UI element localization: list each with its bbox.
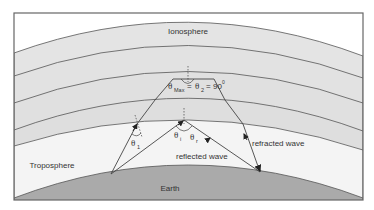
troposphere-label: Troposphere xyxy=(29,161,75,170)
refracted-wave-label: refracted wave xyxy=(252,139,305,148)
equals-sign-1: = xyxy=(187,82,192,91)
ionosphere-label: Ionosphere xyxy=(168,27,209,36)
theta-i-subscript: i xyxy=(180,136,181,142)
diagram-canvas: Ionosphere Troposphere Earth θ Max = θ 2… xyxy=(0,0,374,210)
theta-2-symbol: θ xyxy=(195,81,199,91)
theta-1-symbol: θ xyxy=(131,138,135,148)
theta-1-subscript: 1 xyxy=(137,144,140,150)
theta-max-symbol: θ xyxy=(168,81,172,91)
theta-max-subscript: Max xyxy=(174,87,185,93)
theta-2-subscript: 2 xyxy=(201,87,204,93)
equals-sign-2: = xyxy=(206,82,211,91)
theta-r-subscript: r xyxy=(196,138,198,144)
earth-label: Earth xyxy=(160,184,179,193)
theta-i-symbol: θ xyxy=(174,130,178,140)
theta-r-symbol: θ xyxy=(190,132,194,142)
reflected-wave-label: reflected wave xyxy=(176,152,228,161)
ionosphere-propagation-diagram: Ionosphere Troposphere Earth θ Max = θ 2… xyxy=(0,0,374,210)
degree-superscript: 0 xyxy=(222,79,225,85)
